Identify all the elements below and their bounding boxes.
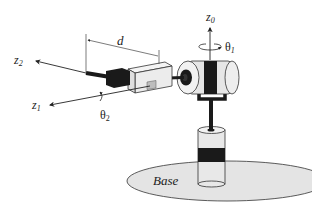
z2-axis: z2 — [13, 53, 86, 73]
base-column — [198, 127, 225, 188]
z1-label: z1 — [31, 98, 41, 113]
d-label: d — [117, 33, 124, 48]
z2-label: z2 — [13, 53, 23, 68]
manipulator-diagram: d z2 z1 θ2 z0 θ1 Base — [0, 0, 312, 207]
theta1-label: θ1 — [225, 40, 235, 55]
prismatic-housing — [128, 62, 172, 93]
z0-axis: z0 θ1 — [199, 10, 235, 60]
base-label: Base — [153, 173, 179, 188]
revolute-joint-drum — [177, 61, 239, 94]
sliding-arm — [86, 68, 130, 88]
theta2-label: θ2 — [100, 108, 110, 123]
z0-label: z0 — [205, 10, 215, 25]
theta2-rotation: θ2 — [100, 92, 110, 123]
